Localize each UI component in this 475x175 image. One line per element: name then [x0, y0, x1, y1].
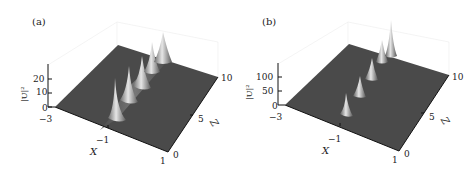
- x-tick-neg1: −1: [96, 135, 109, 145]
- x-axis-label: X: [321, 145, 330, 156]
- x-axis-label: X: [89, 146, 98, 157]
- chart-panel-a: (a) 20 10 0 |U|² −3 −1 1 X 0 5 10 Z: [0, 0, 237, 175]
- panel-label: (a): [32, 16, 46, 27]
- y-tick-10: 10: [221, 73, 233, 83]
- x-tick-neg1: −1: [328, 134, 341, 144]
- surface-plot-a: (a) 20 10 0 |U|² −3 −1 1 X 0 5 10 Z: [0, 0, 237, 175]
- z-tick-0: 0: [42, 103, 48, 113]
- x-tick-1: 1: [392, 155, 398, 165]
- x-tick-neg3: −3: [269, 112, 283, 122]
- z-tick-100: 100: [256, 72, 273, 82]
- y-tick-0: 0: [173, 150, 179, 160]
- z-tick-0: 0: [272, 101, 278, 111]
- z-tick-10: 10: [36, 87, 48, 97]
- x-tick-1: 1: [160, 156, 166, 166]
- x-tick-neg3: −3: [39, 114, 53, 124]
- surface-base: [285, 44, 449, 151]
- z-axis-label: |U|²: [20, 87, 29, 102]
- surface-base: [55, 45, 218, 152]
- y-tick-0: 0: [404, 149, 410, 159]
- panel-label: (b): [262, 16, 276, 27]
- y-tick-10: 10: [452, 72, 464, 82]
- y-tick-5: 5: [429, 112, 435, 122]
- y-axis-label: Z: [207, 116, 221, 129]
- y-axis-label: Z: [438, 114, 452, 127]
- y-tick-5: 5: [198, 114, 204, 124]
- chart-panel-b: (b) 100 50 0 |U|² −3 −1 1 X 0 5 10 Z: [236, 0, 473, 175]
- z-tick-50: 50: [262, 86, 274, 96]
- surface-plot-b: (b) 100 50 0 |U|² −3 −1 1 X 0 5 10 Z: [236, 0, 473, 175]
- z-axis-label: |U|²: [245, 85, 254, 100]
- z-tick-20: 20: [33, 74, 45, 84]
